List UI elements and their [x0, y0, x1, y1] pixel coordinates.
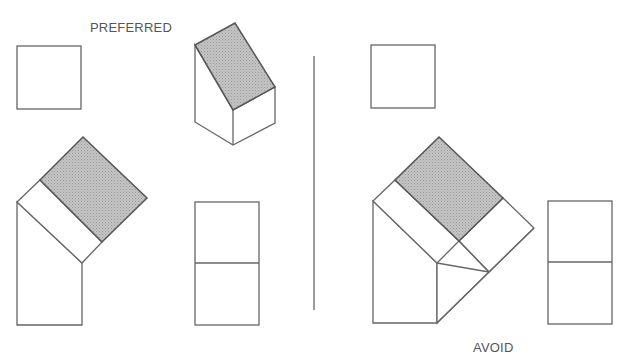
avoid-label: AVOID: [473, 340, 514, 355]
preferred-auxiliary-view: [17, 137, 147, 325]
avoid-group: [371, 45, 612, 324]
drawing-canvas: PREFERRED AVOID: [0, 0, 628, 357]
avoid-top-view-square: [371, 45, 435, 108]
preferred-top-view-square: [17, 46, 81, 109]
avoid-side-view: [548, 201, 612, 324]
preferred-group: [17, 23, 275, 325]
preferred-side-view: [195, 202, 259, 325]
preferred-isometric-block: [195, 23, 275, 145]
preferred-label: PREFERRED: [90, 20, 172, 35]
avoid-lower-triangle: [437, 263, 489, 323]
avoid-auxiliary-view: [373, 137, 534, 323]
